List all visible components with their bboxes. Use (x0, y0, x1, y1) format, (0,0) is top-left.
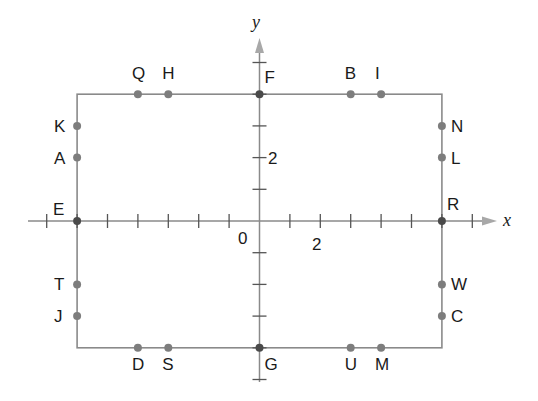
point-label-w: W (451, 275, 467, 294)
point-label-s: S (162, 355, 173, 374)
point-label-u: U (345, 355, 357, 374)
point-label-j: J (54, 307, 63, 326)
coordinate-plane-diagram: QHFBIKANLERTJWCDSGUM y x 0 2 2 (0, 0, 538, 401)
point-label-k: K (54, 117, 66, 136)
x-axis-arrow-icon (482, 217, 497, 226)
point-label-c: C (451, 307, 463, 326)
point-label-f: F (265, 68, 275, 87)
point-w (438, 280, 446, 288)
point-label-n: N (451, 117, 463, 136)
labels: y x 0 2 2 (238, 12, 511, 254)
point-label-q: Q (132, 64, 145, 83)
point-u (347, 344, 355, 352)
point-r (438, 217, 446, 225)
point-label-r: R (447, 195, 459, 214)
y-axis-arrow-icon (255, 38, 264, 53)
point-s (164, 344, 172, 352)
point-j (73, 312, 81, 320)
x-tick-label-2: 2 (312, 235, 321, 254)
y-tick-label-2: 2 (268, 149, 277, 168)
point-label-m: M (375, 355, 389, 374)
point-q (134, 90, 142, 98)
point-label-b: B (345, 64, 356, 83)
point-label-t: T (54, 275, 64, 294)
point-k (73, 122, 81, 130)
point-label-e: E (53, 200, 64, 219)
point-t (73, 280, 81, 288)
point-i (377, 90, 385, 98)
point-label-l: L (451, 149, 460, 168)
point-label-i: I (375, 64, 380, 83)
point-label-d: D (132, 355, 144, 374)
point-m (377, 344, 385, 352)
plot-canvas: QHFBIKANLERTJWCDSGUM y x 0 2 2 (0, 0, 538, 401)
point-h (164, 90, 172, 98)
point-n (438, 122, 446, 130)
axes (28, 38, 497, 382)
point-f (256, 90, 264, 98)
point-l (438, 154, 446, 162)
point-c (438, 312, 446, 320)
point-a (73, 154, 81, 162)
point-g (256, 344, 264, 352)
point-label-g: G (265, 355, 278, 374)
point-d (134, 344, 142, 352)
y-axis-label: y (250, 12, 260, 32)
origin-label: 0 (238, 229, 247, 248)
point-b (347, 90, 355, 98)
point-e (73, 217, 81, 225)
point-label-a: A (54, 149, 66, 168)
point-label-h: H (162, 64, 174, 83)
x-axis-label: x (502, 210, 511, 230)
